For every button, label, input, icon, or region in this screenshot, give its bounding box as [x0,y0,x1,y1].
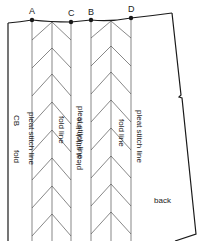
point-a-label: A [29,7,35,16]
point-c-label: C [68,9,75,18]
pleat-stitch-line-label-4: pleat stitch line [135,110,143,163]
point-c-marker [69,20,73,24]
fold-line-label-1: fold line [57,116,65,144]
fold-label: fold [12,150,20,163]
pleat-stitch-line-label-1: pleat stitch line [27,112,35,165]
point-d-label: D [128,5,135,14]
point-a-marker [30,18,34,22]
pattern-outline [8,13,196,241]
back-label: back [154,197,171,205]
point-b-label: B [88,8,94,17]
point-d-marker [129,16,133,20]
point-b-marker [89,18,93,22]
pleat-stitch-line-label-3: pleat stitch line [76,106,84,159]
fold-line-label-2: fold line [117,119,125,147]
cb-label: CB [12,115,20,126]
